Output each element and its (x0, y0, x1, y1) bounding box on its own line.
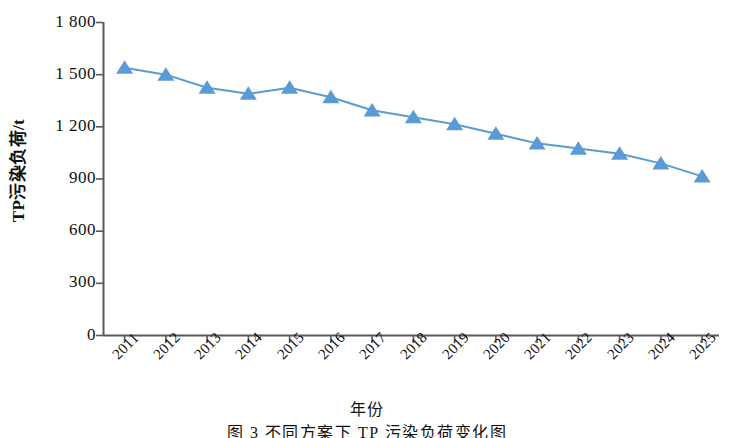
chart-plot-area (0, 0, 734, 438)
series-markers-tp-load (116, 60, 711, 182)
y-axis-tick-labels: 1 8001 5001 2009006003000 (26, 0, 96, 438)
data-point-marker (281, 80, 298, 94)
data-point-marker (364, 103, 381, 117)
y-tick-label: 900 (30, 168, 96, 188)
chart-figure: TP污染负荷/t 1 8001 5001 2009006003000 20112… (0, 0, 734, 438)
y-tick-label: 1 800 (30, 12, 96, 32)
y-tick-label: 0 (30, 325, 96, 345)
data-point-marker (694, 169, 711, 183)
data-point-marker (116, 60, 133, 74)
y-tick-label: 300 (30, 272, 96, 292)
y-tick-label: 1 500 (30, 64, 96, 84)
y-tick-marks (96, 23, 103, 336)
x-axis-title: 年份 (0, 396, 734, 420)
y-tick-label: 1 200 (30, 116, 96, 136)
data-point-marker (199, 80, 216, 94)
figure-caption: 图 3 不同方案下 TP 污染负荷变化图 (0, 424, 734, 438)
y-tick-label: 600 (30, 220, 96, 240)
